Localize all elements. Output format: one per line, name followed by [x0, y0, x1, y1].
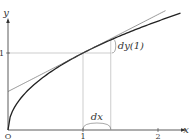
y-axis-arrow — [6, 18, 10, 23]
x-tick-label: 2 — [155, 132, 160, 140]
x-tick-label: O — [5, 132, 12, 140]
dx-brace — [83, 123, 111, 129]
x-axis-label: x — [183, 124, 189, 135]
dy-brace — [112, 39, 116, 53]
x-tick-label: 1 — [80, 132, 85, 140]
differential-diagram: O121xydxdy(1) — [0, 0, 192, 140]
dy-label: dy(1) — [118, 40, 144, 51]
y-axis-label: y — [2, 7, 9, 18]
y-tick-label: 1 — [0, 49, 4, 58]
dx-label: dx — [91, 111, 103, 122]
series-tangent — [8, 11, 166, 92]
